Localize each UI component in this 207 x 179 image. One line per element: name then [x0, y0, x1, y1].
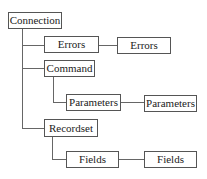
recordset-to-fields-line — [52, 159, 66, 160]
fields-collection-node: Fields — [66, 151, 119, 168]
connection-trunk-line — [22, 28, 23, 129]
parameters-collection-node: Parameters — [66, 94, 121, 111]
parameters-to-parameters-line — [120, 102, 144, 103]
connection-to-command-line — [22, 68, 44, 69]
fields-to-fields-line — [118, 159, 144, 160]
command-trunk-line — [53, 76, 54, 103]
connection-node: Connection — [8, 12, 62, 29]
command-node: Command — [44, 60, 95, 77]
errors-to-errors-line — [98, 45, 117, 46]
recordset-trunk-line — [52, 136, 53, 160]
connection-to-errors-line — [22, 45, 44, 46]
parameters-item-node: Parameters — [144, 95, 197, 112]
errors-collection-node: Errors — [44, 36, 99, 53]
command-to-parameters-line — [53, 102, 66, 103]
recordset-node: Recordset — [44, 119, 98, 137]
fields-item-node: Fields — [144, 151, 197, 168]
connection-to-recordset-line — [22, 128, 44, 129]
errors-item-node: Errors — [117, 37, 171, 54]
